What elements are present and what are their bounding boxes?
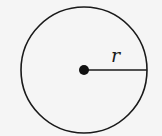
circle-diagram: r [0,0,162,136]
center-point [79,65,89,75]
radius-label: r [111,44,122,66]
